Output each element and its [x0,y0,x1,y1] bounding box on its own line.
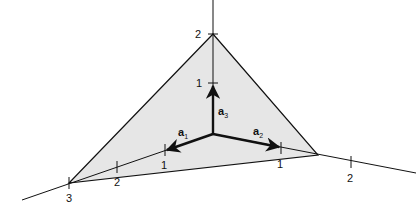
tick-label-a2-2: 2 [347,172,353,184]
tick-label-a1-2: 2 [114,176,120,188]
tick-label-a2-1: 1 [277,158,283,170]
lattice-plane-diagram: 2 1 1 2 3 1 2 a3 a1 a2 [0,0,416,204]
tick-label-a3-2: 2 [195,28,201,40]
tick-label-a3-1: 1 [196,77,202,89]
tick-label-a1-3: 3 [66,192,72,204]
tick-label-a1-1: 1 [161,159,167,171]
